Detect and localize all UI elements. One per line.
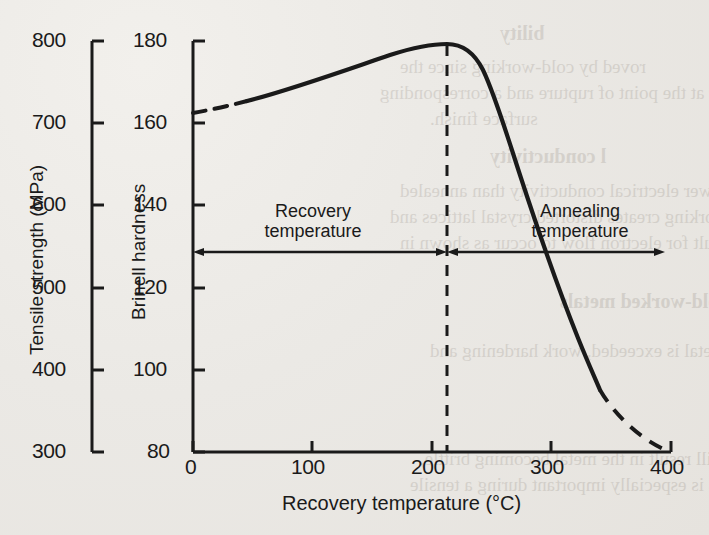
curve-dashed-start — [193, 101, 247, 113]
brinell-hardness-axis — [193, 41, 205, 452]
x-ticklabel-300: 300 — [530, 455, 564, 479]
recovery-temperature-label-line2: temperature — [248, 221, 378, 241]
x-axis-title: Recovery temperature (°C) — [282, 492, 521, 515]
chart-figure: 800 700 600 500 400 300 180 160 140 120 … — [0, 0, 709, 535]
tensile-strength-axis — [92, 41, 104, 452]
tensile-ticklabel-700: 700 — [32, 110, 66, 134]
x-ticklabel-100: 100 — [291, 455, 325, 479]
brinell-ticklabel-80: 80 — [147, 439, 170, 463]
tensile-ticklabel-800: 800 — [32, 28, 66, 52]
recovery-temperature-arrow — [193, 248, 447, 256]
tensile-ticklabel-400: 400 — [32, 357, 66, 381]
annealing-temperature-label-line1: Annealing — [510, 201, 650, 221]
chart-svg — [0, 0, 709, 535]
annealing-temperature-label: Annealing temperature — [510, 201, 650, 241]
x-ticklabel-400: 400 — [650, 455, 684, 479]
brinell-ticklabel-160: 160 — [133, 110, 167, 134]
y-axis-title-tensile-strength: Tensile strength (MPa) — [26, 165, 48, 355]
curve-dashed-end — [600, 390, 670, 452]
brinell-ticklabel-180: 180 — [133, 28, 167, 52]
x-ticklabel-200: 200 — [411, 455, 445, 479]
recovery-temperature-label-line1: Recovery — [248, 201, 378, 221]
y-axis-title-brinell-hardness: Brinell hardness — [128, 184, 150, 320]
brinell-ticklabel-100: 100 — [133, 357, 167, 381]
x-axis — [193, 441, 671, 452]
annealing-temperature-arrow — [447, 248, 665, 256]
tensile-ticklabel-300: 300 — [32, 439, 66, 463]
annealing-temperature-label-line2: temperature — [510, 221, 650, 241]
x-ticklabel-0: 0 — [185, 455, 196, 479]
recovery-temperature-label: Recovery temperature — [248, 201, 378, 241]
